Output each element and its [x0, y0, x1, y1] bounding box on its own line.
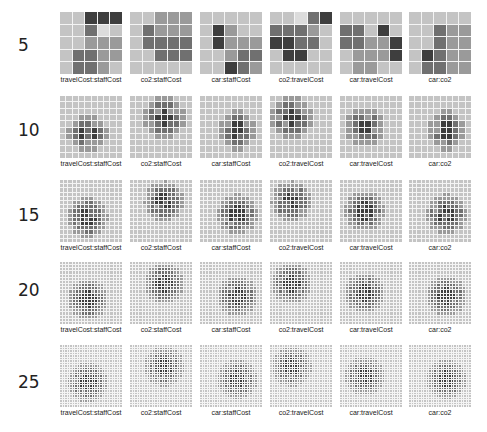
heatmap-panel: car:travelCost: [340, 262, 402, 324]
row-label: 10: [18, 120, 40, 140]
heatmap-grid: [60, 262, 122, 324]
panel-caption: travelCost:staffCost: [51, 76, 131, 83]
panel-caption: car:travelCost: [331, 160, 411, 167]
heatmap-grid: [130, 96, 192, 158]
row-label: 15: [18, 205, 40, 225]
panel-caption: car:staffCost: [191, 326, 271, 333]
heatmap-panel: car:travelCost: [340, 12, 402, 74]
heatmap-panel: co2:travelCost: [270, 96, 332, 158]
heatmap-panel: travelCost:staffCost: [60, 12, 122, 74]
panel-caption: co2:travelCost: [261, 76, 341, 83]
heatmap-grid: [409, 96, 471, 158]
panel-caption: car:travelCost: [331, 326, 411, 333]
heatmap-grid: [60, 180, 122, 242]
heatmap-panel: car:travelCost: [340, 345, 402, 407]
heatmap-panel: co2:travelCost: [270, 345, 332, 407]
panel-caption: car:co2: [400, 409, 480, 416]
heatmap-grid: [340, 12, 402, 74]
panel-caption: co2:staffCost: [121, 244, 201, 251]
heatmap-panel: co2:travelCost: [270, 180, 332, 242]
row-label: 20: [18, 280, 40, 300]
panel-caption: co2:travelCost: [261, 244, 341, 251]
heatmap-panel: co2:staffCost: [130, 12, 192, 74]
heatmap-panel: car:staffCost: [200, 262, 262, 324]
heatmap-panel: car:staffCost: [200, 12, 262, 74]
panel-caption: travelCost:staffCost: [51, 244, 131, 251]
panel-caption: travelCost:staffCost: [51, 160, 131, 167]
heatmap-panel: car:co2: [409, 96, 471, 158]
heatmap-grid: [409, 180, 471, 242]
heatmap-grid: [60, 12, 122, 74]
panel-caption: car:co2: [400, 76, 480, 83]
panel-caption: car:travelCost: [331, 409, 411, 416]
heatmap-panel: car:co2: [409, 12, 471, 74]
row-label: 25: [18, 372, 40, 392]
heatmap-panel: car:staffCost: [200, 345, 262, 407]
heatmap-panel: travelCost:staffCost: [60, 180, 122, 242]
heatmap-grid: [60, 345, 122, 407]
heatmap-grid: [270, 262, 332, 324]
heatmap-grid: [340, 180, 402, 242]
heatmap-panel: car:co2: [409, 345, 471, 407]
heatmap-panel: travelCost:staffCost: [60, 96, 122, 158]
panel-caption: co2:travelCost: [261, 326, 341, 333]
panel-caption: co2:travelCost: [261, 409, 341, 416]
heatmap-panel: car:staffCost: [200, 180, 262, 242]
heatmap-grid: [200, 180, 262, 242]
panel-caption: co2:travelCost: [261, 160, 341, 167]
heatmap-grid: [409, 12, 471, 74]
heatmap-panel: car:travelCost: [340, 180, 402, 242]
heatmap-panel: co2:staffCost: [130, 180, 192, 242]
panel-caption: co2:staffCost: [121, 76, 201, 83]
heatmap-panel: travelCost:staffCost: [60, 262, 122, 324]
heatmap-panel: co2:staffCost: [130, 96, 192, 158]
panel-caption: co2:staffCost: [121, 326, 201, 333]
heatmap-grid: [130, 180, 192, 242]
heatmap-panel: travelCost:staffCost: [60, 345, 122, 407]
heatmap-grid: [340, 96, 402, 158]
heatmap-panel: car:co2: [409, 180, 471, 242]
heatmap-grid: [270, 96, 332, 158]
heatmap-grid: [200, 345, 262, 407]
panel-caption: car:staffCost: [191, 409, 271, 416]
heatmap-grid: [60, 96, 122, 158]
heatmap-grid: [340, 262, 402, 324]
heatmap-panel: car:co2: [409, 262, 471, 324]
panel-caption: co2:staffCost: [121, 409, 201, 416]
heatmap-panel: co2:staffCost: [130, 345, 192, 407]
heatmap-panel: co2:staffCost: [130, 262, 192, 324]
heatmap-grid: [130, 12, 192, 74]
heatmap-grid: [409, 262, 471, 324]
panel-caption: car:staffCost: [191, 244, 271, 251]
row-label: 5: [18, 35, 29, 55]
heatmap-grid: [200, 262, 262, 324]
panel-caption: travelCost:staffCost: [51, 326, 131, 333]
panel-caption: car:co2: [400, 326, 480, 333]
heatmap-panel: car:travelCost: [340, 96, 402, 158]
panel-caption: car:staffCost: [191, 160, 271, 167]
panel-caption: car:travelCost: [331, 244, 411, 251]
panel-caption: car:co2: [400, 160, 480, 167]
heatmap-panel: co2:travelCost: [270, 12, 332, 74]
heatmap-grid: [200, 96, 262, 158]
heatmap-grid: [200, 12, 262, 74]
heatmap-grid: [270, 12, 332, 74]
heatmap-panel: co2:travelCost: [270, 262, 332, 324]
panel-caption: co2:staffCost: [121, 160, 201, 167]
heatmap-grid: [130, 262, 192, 324]
heatmap-grid: [340, 345, 402, 407]
panel-caption: car:staffCost: [191, 76, 271, 83]
heatmap-grid: [409, 345, 471, 407]
panel-caption: travelCost:staffCost: [51, 409, 131, 416]
panel-caption: car:co2: [400, 244, 480, 251]
heatmap-grid: [130, 345, 192, 407]
heatmap-grid: [270, 180, 332, 242]
panel-caption: car:travelCost: [331, 76, 411, 83]
heatmap-panel: car:staffCost: [200, 96, 262, 158]
heatmap-grid: [270, 345, 332, 407]
